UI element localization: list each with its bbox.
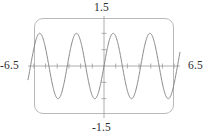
figure-container: 1.5 -1.5 -6.5 6.5 xyxy=(0,0,203,134)
y-min-label: -1.5 xyxy=(0,121,203,133)
x-max-label: 6.5 xyxy=(188,59,203,71)
x-min-label: -6.5 xyxy=(0,59,19,71)
y-max-label: 1.5 xyxy=(0,1,203,13)
plot-canvas xyxy=(24,14,184,118)
